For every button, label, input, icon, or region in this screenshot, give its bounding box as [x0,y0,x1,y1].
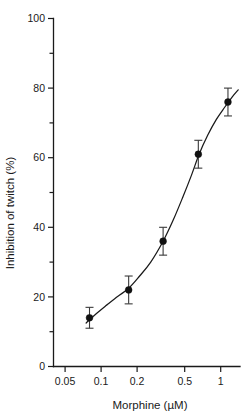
x-tick-label: 0.1 [94,375,109,387]
data-point-marker [160,238,167,245]
y-tick-label: 40 [33,221,45,233]
dose-response-plot: 020406080100 0.050.10.20.51 Morphine (µM… [0,0,248,417]
data-group [86,88,239,328]
x-axis-title: Morphine (µM) [112,399,187,411]
y-tick-label: 60 [33,151,45,163]
data-point-marker [86,314,93,321]
y-axis-title: Inhibition of twitch (%) [4,157,16,270]
y-tick-label: 20 [33,291,45,303]
x-axis-tick-labels: 0.050.10.20.51 [55,375,224,387]
y-tick-label: 0 [39,360,45,372]
error-bars [86,88,232,328]
y-axis-group: 020406080100 [27,12,53,372]
data-point-marker [225,99,232,106]
data-point-marker [195,151,202,158]
x-axis-ticks [65,367,221,373]
data-point-marker [125,287,132,294]
y-tick-label: 100 [27,12,45,24]
chart-figure: 020406080100 0.050.10.20.51 Morphine (µM… [0,0,248,417]
x-tick-label: 0.05 [55,375,76,387]
y-axis-tick-labels: 020406080100 [27,12,45,372]
y-axis-ticks [48,19,54,367]
x-axis-group: 0.050.10.20.51 [54,367,241,387]
x-tick-label: 0.5 [177,375,192,387]
x-tick-label: 0.2 [130,375,145,387]
fit-curve [86,90,238,323]
x-tick-label: 1 [218,375,224,387]
y-tick-label: 80 [33,82,45,94]
